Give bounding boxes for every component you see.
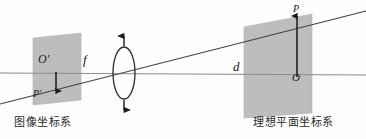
label-p: P [293, 4, 299, 14]
label-o-prime: O′ [38, 53, 49, 65]
caption-ideal-plane-coordinate-system: 理想平面坐标系 [253, 117, 334, 128]
label-p-prime: P′ [33, 89, 41, 99]
label-focal-length: f [83, 53, 87, 66]
label-o: O [292, 72, 300, 83]
label-distance: d [233, 60, 240, 73]
ideal-plane-quad [244, 14, 312, 118]
caption-image-coordinate-system: 图像坐标系 [14, 117, 72, 128]
